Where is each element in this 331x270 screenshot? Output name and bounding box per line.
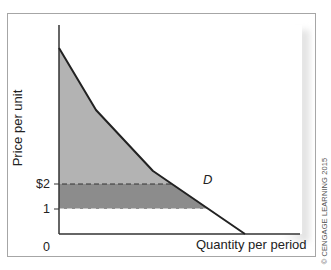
copyright-notice: © CENGAGE LEARNING 2015 [320, 158, 329, 265]
y-tick-1: 1 [26, 202, 50, 216]
y-axis-label: Price per unit [10, 90, 25, 167]
y-tick-2: $2 [26, 177, 50, 191]
x-axis-label: Quantity per period [196, 237, 307, 252]
demand-chart [0, 0, 331, 270]
y-tick-0: 0 [26, 240, 50, 254]
demand-curve-label: D [203, 172, 212, 187]
